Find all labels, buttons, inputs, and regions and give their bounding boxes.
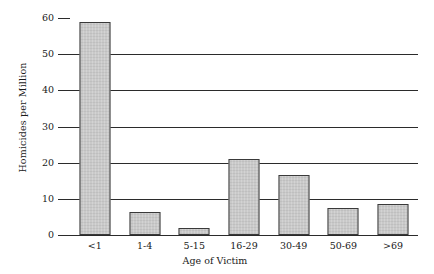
bar-group: 1-4 [120, 18, 170, 235]
y-tick-label-40: 40 [42, 84, 54, 95]
y-tick-30: 30 [58, 127, 70, 128]
y-axis-title: Homicides per Million [14, 0, 32, 235]
bar-group: <1 [70, 18, 120, 235]
bar-group: 50-69 [319, 18, 369, 235]
bar [278, 175, 309, 235]
bar [378, 204, 409, 235]
bar [79, 22, 110, 235]
bar-series: <11-45-1516-2930-4950-69>69 [70, 18, 418, 235]
bar [179, 228, 210, 235]
y-tick-10: 10 [58, 199, 70, 200]
y-tick-label-20: 20 [42, 157, 54, 168]
x-tick-label: 5-15 [184, 240, 205, 251]
y-tick-40: 40 [58, 90, 70, 91]
x-tick-label: 1-4 [137, 240, 152, 251]
x-axis-title: Age of Victim [70, 255, 360, 266]
y-tick-50: 50 [58, 54, 70, 55]
y-tick-60: 60 [58, 18, 70, 19]
bar [228, 159, 259, 235]
x-tick-label: 16-29 [230, 240, 257, 251]
x-tick-label: >69 [383, 240, 403, 251]
y-tick-label-60: 60 [42, 12, 54, 23]
bar-group: >69 [368, 18, 418, 235]
x-axis-line [58, 235, 418, 236]
bar-group: 16-29 [219, 18, 269, 235]
plot-area: 0102030405060 <11-45-1516-2930-4950-69>6… [70, 18, 418, 235]
bar-group: 5-15 [169, 18, 219, 235]
y-tick-label-50: 50 [42, 48, 54, 59]
y-tick-label-0: 0 [48, 229, 54, 240]
x-tick-label: 50-69 [330, 240, 357, 251]
x-tick-label: 30-49 [280, 240, 307, 251]
y-tick-20: 20 [58, 163, 70, 164]
x-tick-label: <1 [88, 240, 102, 251]
bar [328, 208, 359, 235]
bar [129, 212, 160, 236]
y-tick-label-10: 10 [42, 193, 54, 204]
bar-group: 30-49 [269, 18, 319, 235]
y-tick-label-30: 30 [42, 121, 54, 132]
homicides-by-age-bar-chart: Homicides per Million 0102030405060 <11-… [0, 0, 434, 274]
